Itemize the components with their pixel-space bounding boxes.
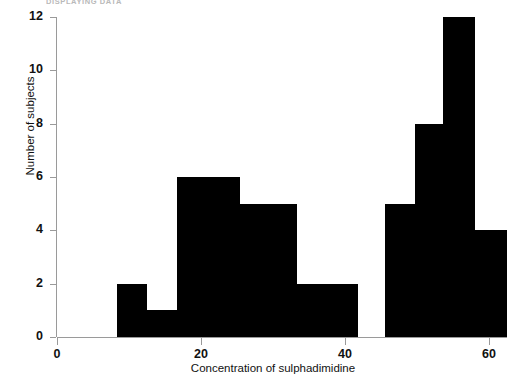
histogram-bar <box>117 284 147 337</box>
y-tick-label: 12 <box>15 9 43 23</box>
x-axis-line <box>57 337 507 338</box>
x-axis-label: Concentration of sulphadimidine <box>57 362 489 374</box>
y-tick <box>50 230 56 231</box>
y-tick <box>50 124 56 125</box>
x-tick-label: 40 <box>325 347 365 361</box>
histogram-bar <box>443 17 475 337</box>
y-tick-label: 2 <box>15 276 43 290</box>
y-tick-label: 6 <box>15 169 43 183</box>
histogram-bar <box>385 204 415 337</box>
histogram-bar <box>415 124 443 337</box>
histogram-bar <box>177 177 240 337</box>
x-tick-label: 20 <box>181 347 221 361</box>
x-tick <box>57 338 58 345</box>
running-header: DISPLAYING DATA <box>46 0 122 4</box>
x-tick-label: 60 <box>469 347 509 361</box>
y-tick <box>50 177 56 178</box>
histogram-bar <box>297 284 358 337</box>
y-tick-label: 0 <box>15 329 43 343</box>
y-tick <box>50 284 56 285</box>
x-tick <box>345 338 346 345</box>
y-tick-label: 10 <box>15 62 43 76</box>
y-tick <box>50 70 56 71</box>
histogram-bar <box>147 310 177 337</box>
histogram-figure: DISPLAYING DATA Number of subjects Conce… <box>0 0 519 384</box>
histogram-bar <box>475 230 507 337</box>
y-tick-label: 8 <box>15 116 43 130</box>
x-tick <box>489 338 490 345</box>
y-axis-line <box>56 17 57 337</box>
y-tick <box>50 337 56 338</box>
y-tick <box>50 17 56 18</box>
x-tick <box>201 338 202 345</box>
x-tick-label: 0 <box>37 347 77 361</box>
histogram-bar <box>240 204 297 337</box>
y-tick-label: 4 <box>15 222 43 236</box>
